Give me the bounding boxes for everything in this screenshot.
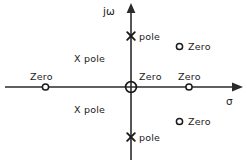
real-axis-label: σ [226,96,233,107]
imaginary-axis-label: jω [103,6,115,17]
pole-label-lower-left-quadrant: X pole [74,105,105,115]
zero-label-upper-right-quadrant: Zero [188,42,211,52]
zero-marker-right-real-axis [186,84,192,90]
zero-label-left-real-axis: Zero [30,72,53,82]
imaginary-axis-arrowhead [127,3,136,13]
zero-marker-left-real-axis [42,84,48,90]
zero-label-origin: Zero [139,72,162,82]
zero-marker-upper-right [176,43,182,49]
real-axis-arrowhead [232,83,243,92]
real-axis-group [5,83,243,92]
pole-label-bottom: pole [139,133,160,143]
zero-marker-lower-right [176,118,182,124]
pole-label-top: pole [139,32,160,42]
zero-label-right-real-axis: Zero [178,72,201,82]
pole-zero-diagram: jω σ pole pole X pole X pole Zero Zero Z… [0,0,247,163]
zero-label-lower-right-quadrant: Zero [188,117,211,127]
pole-label-upper-left-quadrant: X pole [74,54,105,64]
